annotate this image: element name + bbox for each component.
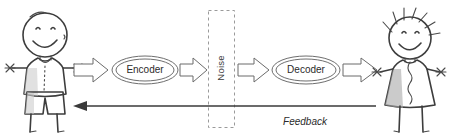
arrow-sender-encoder: [74, 58, 108, 82]
arrow-noise-decoder: [238, 58, 269, 82]
communication-model-diagram: Encoder Noise Decoder: [0, 0, 453, 137]
feedback-arrow: [73, 101, 376, 111]
receiver-stick-figure: [372, 8, 446, 132]
node-noise-label: Noise: [215, 55, 226, 80]
node-encoder-label: Encoder: [126, 64, 164, 75]
sender-stick-figure: [5, 12, 83, 132]
node-decoder: Decoder: [272, 56, 340, 84]
diagram-canvas: Encoder Noise Decoder: [0, 0, 453, 137]
node-noise: Noise: [209, 11, 235, 128]
arrow-encoder-noise: [180, 58, 207, 82]
arrow-decoder-receiver: [343, 58, 377, 82]
feedback-label: Feedback: [283, 116, 328, 127]
node-decoder-label: Decoder: [287, 64, 325, 75]
node-encoder: Encoder: [112, 56, 178, 84]
